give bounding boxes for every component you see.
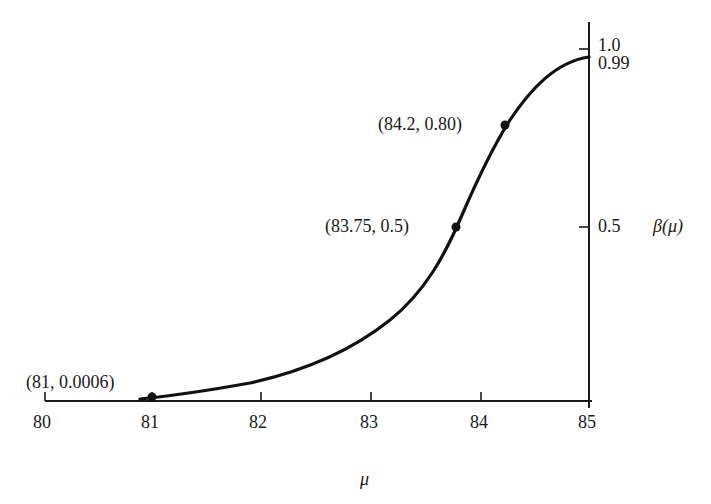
x-tick-label: 81 [141, 413, 159, 431]
x-tick-label: 82 [249, 413, 267, 431]
x-ticks [45, 392, 481, 401]
y-tick-label: 0.5 [598, 217, 621, 235]
y-axis-title: β(μ) [653, 217, 683, 235]
x-axis-title: μ [360, 470, 369, 488]
x-tick-label: 80 [33, 413, 51, 431]
x-tick-label: 84 [470, 413, 488, 431]
y-tick-label: 1.0 [598, 36, 621, 54]
annotation-83.75: (83.75, 0.5) [325, 217, 409, 235]
y-tick-label: 0.99 [598, 54, 630, 72]
annotation-84.2: (84.2, 0.80) [378, 115, 462, 133]
annotation-81: (81, 0.0006) [26, 373, 115, 391]
x-tick-label: 85 [578, 413, 596, 431]
x-tick-label: 83 [360, 413, 378, 431]
data-point-84.2 [501, 121, 510, 130]
data-point-81 [148, 393, 157, 402]
data-point-83.75 [452, 223, 461, 232]
power-curve-chart [0, 0, 711, 504]
